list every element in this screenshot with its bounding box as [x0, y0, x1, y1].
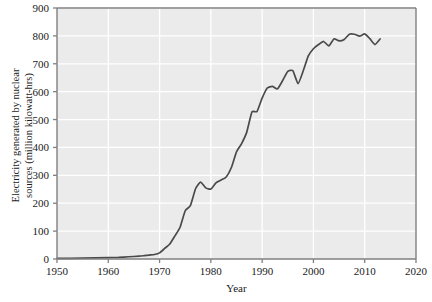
chart-plot-area — [0, 0, 432, 302]
plot-background — [57, 8, 416, 259]
chart-figure: Electricity generated by nuclear sources… — [0, 0, 432, 302]
x-axis-title: Year — [57, 282, 416, 294]
